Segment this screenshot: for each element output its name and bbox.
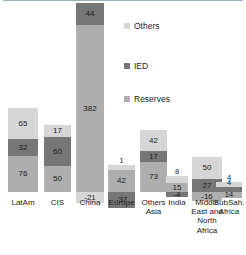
bar-segment: 42 (140, 130, 167, 151)
bar-value-label: 42 (149, 137, 158, 145)
bar-value-label: -21 (84, 194, 96, 202)
bar-value-label: 73 (149, 173, 158, 181)
legend-label: IED (134, 62, 148, 71)
bar-value-label: 42 (117, 177, 126, 185)
bar-value-label: -4 (174, 191, 181, 199)
bar-value-label: 32 (19, 144, 28, 152)
square-swatch-icon (124, 63, 130, 69)
bar-segment: 32 (8, 139, 38, 156)
bar-segment: 76 (8, 156, 38, 192)
bar-segment: 44 (76, 3, 104, 25)
legend-item-ied[interactable]: IED (124, 62, 148, 71)
bar-value-label: 50 (53, 175, 62, 183)
bar-segment: 73 (140, 162, 167, 192)
legend-item-others[interactable]: Others (124, 22, 160, 31)
stacked-bar-chart: 65327617605044382-21142-37421773815-4502… (0, 0, 246, 255)
bar-value-label: 50 (203, 164, 212, 172)
bar-value-label: 76 (19, 170, 28, 178)
bar-value-label: 44 (86, 10, 95, 18)
bar-segment-negative: -4 (166, 192, 188, 197)
bar-segment: 17 (44, 125, 71, 137)
bar-segment: 50 (44, 166, 71, 192)
bar-segment: 42 (108, 170, 135, 192)
plot-area: 65327617605044382-21142-37421773815-4502… (0, 0, 246, 255)
category-label-latam: LatAm (3, 198, 43, 207)
zero-axis-line (3, 0, 243, 1)
legend-label: Others (134, 22, 160, 31)
bar-segment: 60 (44, 137, 71, 166)
category-label-subsah-africa: SubSah.Africa (211, 198, 246, 216)
bar-segment: 65 (8, 108, 38, 139)
bar-value-label: 14 (225, 191, 233, 199)
square-swatch-icon (124, 23, 130, 29)
bar-value-label: -37 (116, 196, 128, 204)
bar-segment: 50 (192, 157, 222, 179)
bar-value-label: 382 (83, 105, 96, 113)
legend-label: Reserves (134, 95, 170, 104)
bar-value-label: 65 (19, 120, 28, 128)
bar-value-label: 17 (53, 127, 62, 135)
bar-value-label: -16 (201, 193, 213, 201)
bar-value-label: 8 (175, 168, 179, 176)
bar-value-label: 17 (149, 153, 158, 161)
bar-value-label: 27 (203, 182, 212, 190)
square-swatch-icon (124, 96, 130, 102)
bar-segment: 8 (166, 176, 188, 183)
bar-segment: 382 (76, 25, 104, 192)
legend-item-reserves[interactable]: Reserves (124, 95, 170, 104)
bar-value-label: 60 (53, 148, 62, 156)
bar-segment: 17 (140, 151, 167, 162)
bar-value-label: 4 (227, 179, 231, 187)
bar-value-label: 1 (119, 157, 123, 165)
